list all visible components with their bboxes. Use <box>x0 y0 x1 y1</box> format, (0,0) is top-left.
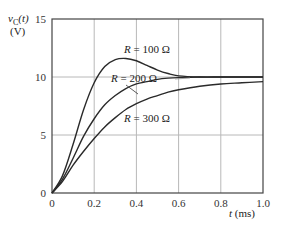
y-tick-labels: 051015 <box>35 13 47 199</box>
annotation-r300: R = 300 Ω <box>123 112 170 124</box>
x-tick-label: 0.8 <box>214 197 228 209</box>
y-tick-label: 0 <box>41 187 47 199</box>
y-tick-label: 5 <box>41 129 47 141</box>
x-axis-label: t (ms) <box>229 207 255 220</box>
annotation-r200: R = 200 Ω <box>110 72 157 84</box>
x-tick-label: 0.4 <box>130 197 144 209</box>
annotation-r100: R = 100 Ω <box>123 43 170 55</box>
y-tick-label: 10 <box>35 71 47 83</box>
y-axis-unit: (V) <box>10 25 26 38</box>
x-tick-label: 0.6 <box>172 197 186 209</box>
x-tick-label: 1.0 <box>256 197 270 209</box>
curves <box>52 58 263 193</box>
y-tick-label: 15 <box>35 13 47 25</box>
x-tick-label: 0 <box>49 197 55 209</box>
series-line-1 <box>52 58 263 193</box>
x-tick-label: 0.2 <box>87 197 101 209</box>
chart: 00.20.40.60.81.0 051015 vC(t) (V) t (ms)… <box>0 0 284 229</box>
